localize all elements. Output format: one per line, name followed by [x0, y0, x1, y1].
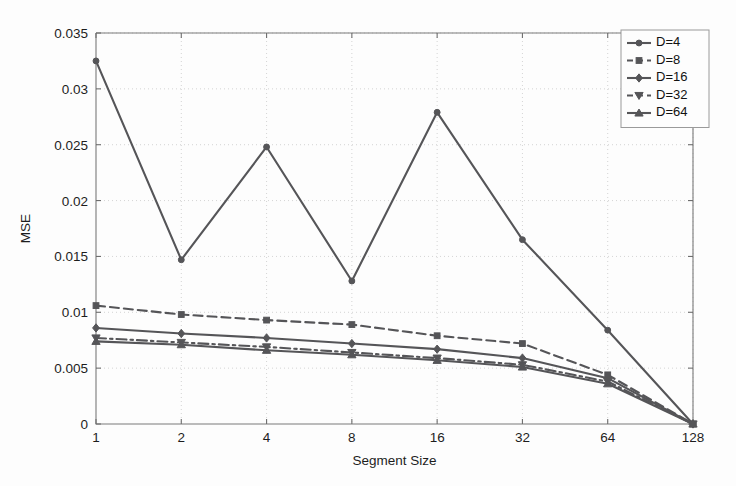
axis-frame [96, 33, 693, 424]
data-point-marker [349, 322, 355, 328]
x-tick-label: 8 [348, 430, 356, 445]
y-tick-label: 0.035 [54, 26, 88, 41]
x-axis-title: Segment Size [352, 453, 436, 468]
data-point-marker [605, 327, 611, 333]
data-point-marker [93, 303, 99, 309]
chart-figure: 00.0050.010.0150.020.0250.030.0351248163… [0, 0, 736, 486]
y-axis-title: MSE [18, 214, 33, 243]
data-point-marker [264, 144, 270, 150]
y-tick-label: 0 [80, 417, 88, 432]
series-line [96, 338, 693, 424]
data-point-marker [349, 278, 355, 284]
data-point-marker [520, 341, 526, 347]
y-tick-label: 0.015 [54, 249, 88, 264]
legend-label-d32: D=32 [656, 87, 687, 102]
x-tick-label: 32 [515, 430, 530, 445]
y-tick-label: 0.03 [62, 82, 88, 97]
x-tick-label: 4 [263, 430, 271, 445]
legend-label-d8: D=8 [656, 52, 680, 67]
data-point-marker [264, 317, 270, 323]
legend-label-d16: D=16 [656, 69, 687, 84]
chart-axes [96, 33, 693, 424]
y-tick-label: 0.005 [54, 361, 88, 376]
legend-marker [636, 58, 642, 64]
x-tick-label: 128 [682, 430, 705, 445]
data-point-marker [434, 333, 440, 339]
series-d8 [93, 303, 696, 427]
data-point-marker [519, 237, 525, 243]
data-point-marker [178, 257, 184, 263]
y-tick-label: 0.025 [54, 138, 88, 153]
legend-label-d4: D=4 [656, 34, 680, 49]
x-tick-label: 64 [600, 430, 616, 445]
series-line [96, 306, 693, 424]
data-point-marker [348, 339, 355, 347]
y-tick-label: 0.02 [62, 194, 88, 209]
data-point-marker [93, 58, 99, 64]
series-d64 [92, 337, 697, 427]
x-tick-label: 2 [178, 430, 186, 445]
data-point-marker [434, 345, 441, 353]
data-point-marker [93, 324, 100, 332]
data-point-marker [263, 334, 270, 342]
data-point-marker [178, 312, 184, 318]
chart-gridlines [96, 33, 693, 424]
x-tick-label: 1 [92, 430, 100, 445]
legend-marker [636, 40, 642, 46]
chart-legend: D=4D=8D=16D=32D=64 [621, 30, 709, 128]
x-tick-label: 16 [430, 430, 445, 445]
chart-canvas: 00.0050.010.0150.020.0250.030.0351248163… [0, 0, 736, 486]
y-tick-label: 0.01 [62, 305, 88, 320]
data-point-marker [434, 109, 440, 115]
data-point-marker [519, 354, 526, 362]
data-point-marker [178, 329, 185, 337]
series-line [96, 341, 693, 424]
series-line [96, 61, 693, 424]
legend-label-d64: D=64 [656, 104, 687, 119]
